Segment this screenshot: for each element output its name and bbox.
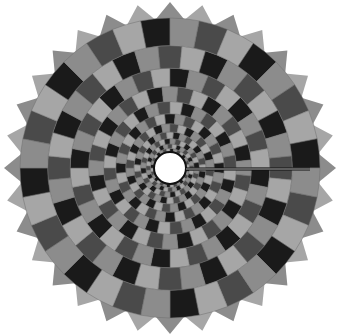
checker-cell	[158, 267, 182, 290]
star-tooth	[155, 2, 184, 20]
center-hole	[154, 152, 186, 184]
checker-cell	[170, 248, 189, 268]
checker-cell	[168, 188, 173, 193]
checker-cell	[194, 162, 200, 168]
checker-cell	[162, 234, 178, 249]
checker-cell	[141, 168, 147, 174]
checker-cell	[162, 87, 178, 102]
checker-cell	[165, 114, 176, 124]
checker-cell	[164, 139, 170, 145]
checker-cell	[48, 156, 71, 180]
star-tooth	[4, 153, 22, 182]
checker-cell	[116, 163, 126, 174]
checker-cell	[170, 288, 199, 318]
checker-cell	[170, 203, 179, 212]
checker-cell	[158, 46, 182, 69]
star-tooth	[318, 153, 336, 182]
checker-cell	[146, 166, 151, 171]
polar-checkerboard-figure	[0, 0, 340, 335]
checker-cell	[168, 144, 173, 149]
checker-cell	[205, 159, 214, 168]
star-tooth	[155, 316, 184, 334]
checker-cell	[166, 132, 173, 139]
checker-cell	[89, 160, 104, 176]
checker-cell	[223, 155, 236, 168]
checker-cell	[170, 221, 183, 234]
checker-cell	[161, 124, 170, 133]
checker-cell	[20, 168, 50, 197]
checker-cell	[165, 212, 176, 222]
polar-checkerboard-svg	[0, 0, 340, 335]
checker-cell	[126, 168, 135, 177]
checker-cell	[157, 102, 170, 115]
checker-cell	[151, 68, 170, 88]
checker-cell	[70, 168, 90, 187]
checker-cell	[134, 164, 141, 171]
checker-cell	[250, 149, 270, 168]
checker-cell	[104, 168, 117, 181]
checker-cell	[166, 197, 173, 204]
checker-cell	[141, 18, 170, 48]
checker-cell	[290, 139, 320, 168]
checker-cell	[170, 192, 176, 198]
